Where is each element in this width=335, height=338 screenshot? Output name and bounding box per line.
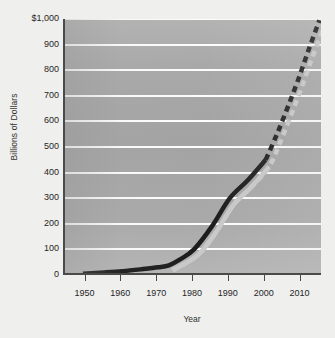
x-tick-mark [85,275,86,281]
y-tick-label: 400 [4,167,59,177]
x-tick-mark [300,275,301,281]
chart-figure: Billions of Dollars 01002003004005006007… [0,0,335,338]
x-tick-label: 2010 [277,288,323,298]
y-tick-label: 0 [4,269,59,279]
y-tick-label: 800 [4,64,59,74]
y-tick-label: 300 [4,192,59,202]
y-tick-label: 100 [4,243,59,253]
x-tick-mark [120,275,121,281]
x-tick-mark [192,275,193,281]
plot-area [63,19,321,275]
y-tick-label: 200 [4,218,59,228]
series-projected [266,20,320,160]
data-series-layer [65,19,321,275]
x-tick-mark [156,275,157,281]
y-tick-label: 900 [4,39,59,49]
x-tick-mark [264,275,265,281]
x-axis-title: Year [58,314,326,324]
y-tick-label: 700 [4,90,59,100]
y-tick-label: 500 [4,141,59,151]
series-shadow [172,30,321,270]
x-tick-mark [228,275,229,281]
series-actual [83,160,266,274]
y-tick-label: 600 [4,115,59,125]
y-tick-label: $1,000 [4,13,59,23]
